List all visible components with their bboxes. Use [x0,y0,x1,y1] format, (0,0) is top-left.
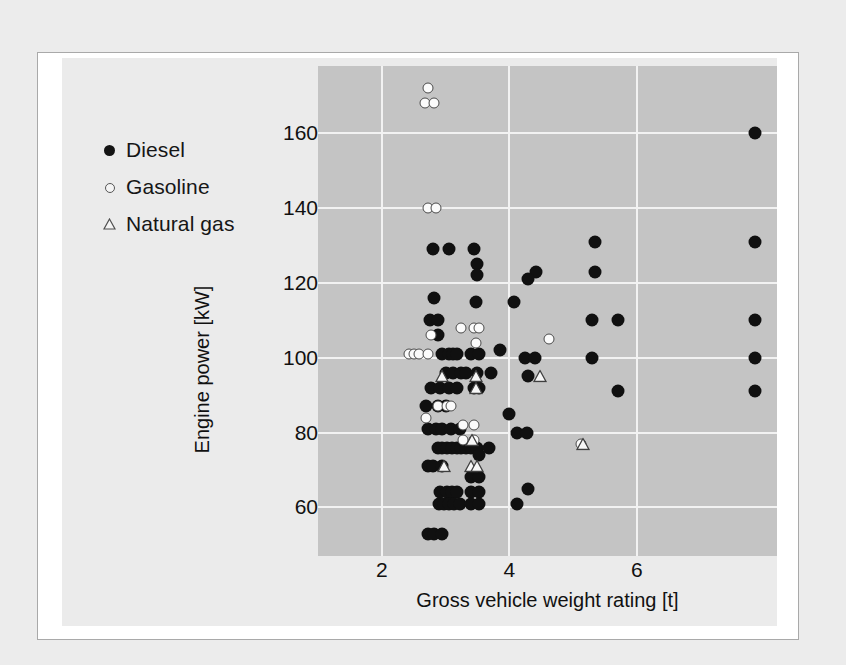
data-point-diesel [431,314,444,327]
gridline-horizontal [318,207,777,209]
gridline-vertical [381,66,383,556]
data-point-natural-gas [533,370,547,383]
y-axis-tick-labels: 6080100120140160 [258,58,318,626]
data-point-diesel [426,243,439,256]
data-point-diesel [470,295,483,308]
legend-label-gasoline: Gasoline [126,175,210,199]
gridline-vertical [636,66,638,556]
data-point-gasoline [471,337,482,348]
page-background: Diesel Gasoline [0,0,846,665]
data-point-diesel [586,314,599,327]
data-point-gasoline [422,349,433,360]
open-triangle-icon [100,213,122,235]
figure-frame: Diesel Gasoline [37,52,799,640]
data-point-diesel [450,348,463,361]
legend-item-gasoline[interactable]: Gasoline [100,168,280,205]
chart-figure: Diesel Gasoline [62,58,777,626]
open-circle-icon [100,176,122,198]
data-point-natural-gas [470,460,484,473]
data-point-gasoline [421,412,432,423]
filled-circle-icon [100,139,122,161]
data-point-diesel [589,265,602,278]
data-point-gasoline [473,322,484,333]
data-point-natural-gas [435,370,449,383]
data-point-diesel [436,527,449,540]
data-point-diesel [510,497,523,510]
data-point-diesel [485,366,498,379]
figure-mat: Diesel Gasoline [38,53,798,639]
data-point-diesel [748,235,761,248]
gridline-horizontal [318,282,777,284]
data-point-diesel [611,314,624,327]
data-point-diesel [472,471,485,484]
data-point-natural-gas [576,437,590,450]
legend-label-natural-gas: Natural gas [126,212,235,236]
data-point-diesel [468,243,481,256]
y-tick-label: 140 [258,196,318,220]
data-point-diesel [428,291,441,304]
data-point-diesel [748,314,761,327]
data-point-gasoline [429,98,440,109]
x-axis-tick-labels: 246 [318,558,777,588]
data-point-gasoline [430,203,441,214]
y-tick-label: 80 [258,421,318,445]
x-tick-label: 4 [484,558,534,582]
data-point-diesel [482,441,495,454]
data-point-diesel [471,269,484,282]
data-point-diesel [521,426,534,439]
data-point-diesel [472,348,485,361]
data-point-gasoline [469,420,480,431]
triangle-glyph [103,218,116,230]
gridline-vertical [508,66,510,556]
data-point-diesel [493,344,506,357]
data-point-diesel [522,482,535,495]
data-point-diesel [522,273,535,286]
y-tick-label: 120 [258,271,318,295]
legend-item-diesel[interactable]: Diesel [100,131,280,168]
legend-label-diesel: Diesel [126,138,185,162]
y-axis-title: Engine power [kW] [191,220,214,520]
data-point-diesel [508,295,521,308]
data-point-diesel [589,235,602,248]
x-tick-label: 2 [357,558,407,582]
data-point-natural-gas [469,381,483,394]
data-point-diesel [472,497,485,510]
data-point-diesel [450,381,463,394]
x-tick-label: 6 [612,558,662,582]
y-tick-label: 160 [258,121,318,145]
data-point-diesel [503,407,516,420]
data-point-diesel [528,351,541,364]
y-tick-label: 60 [258,495,318,519]
y-tick-label: 100 [258,346,318,370]
gridline-horizontal [318,132,777,134]
data-point-gasoline [456,322,467,333]
data-point-gasoline [458,420,469,431]
data-point-diesel [748,127,761,140]
data-point-diesel [586,351,599,364]
gridline-horizontal [318,432,777,434]
data-point-diesel [748,385,761,398]
plot-panel [318,66,777,556]
data-point-diesel [442,243,455,256]
data-point-gasoline [445,401,456,412]
data-point-natural-gas [437,460,451,473]
data-point-gasoline [422,83,433,94]
data-point-diesel [748,351,761,364]
data-point-gasoline [426,330,437,341]
data-point-diesel [611,385,624,398]
x-axis-title: Gross vehicle weight rating [t] [318,589,777,612]
data-point-gasoline [543,334,554,345]
gridline-horizontal [318,357,777,359]
data-point-natural-gas [465,434,479,447]
gridline-horizontal [318,506,777,508]
